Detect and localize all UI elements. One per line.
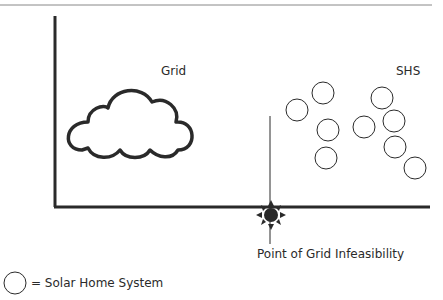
legend-text: = Solar Home System bbox=[31, 276, 163, 290]
grid-label: Grid bbox=[161, 64, 186, 78]
solar-home-system-icon bbox=[404, 157, 426, 179]
legend-circle-icon bbox=[4, 272, 26, 294]
solar-home-system-icon bbox=[312, 82, 334, 104]
shs-circles bbox=[286, 82, 426, 179]
infeasibility-point-icon bbox=[256, 200, 286, 230]
solar-home-system-icon bbox=[384, 136, 406, 158]
solar-home-system-icon bbox=[286, 99, 308, 121]
solar-home-system-icon bbox=[315, 147, 337, 169]
solar-home-system-icon bbox=[317, 119, 339, 141]
shs-label: SHS bbox=[396, 64, 420, 78]
solar-home-system-icon bbox=[353, 116, 375, 138]
grid-cloud-icon bbox=[68, 91, 192, 158]
solar-home-system-icon bbox=[371, 87, 393, 109]
point-of-grid-infeasibility-label: Point of Grid Infeasibility bbox=[257, 247, 404, 261]
solar-home-system-icon bbox=[383, 110, 405, 132]
